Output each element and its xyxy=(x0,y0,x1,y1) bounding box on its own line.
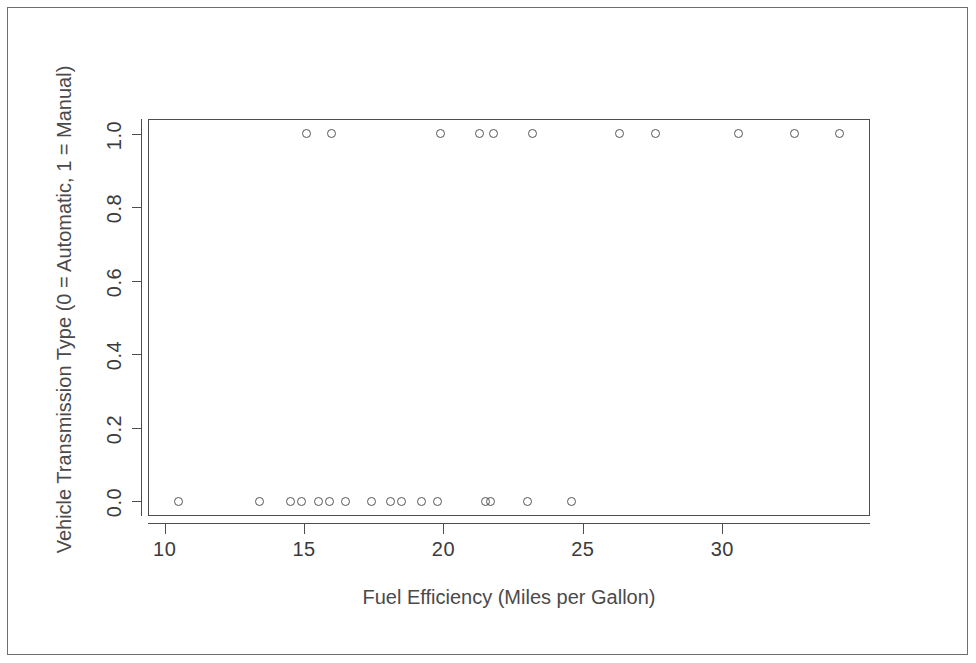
y-axis-tick-label: 0.6 xyxy=(103,262,126,302)
x-axis-tick xyxy=(165,523,166,534)
y-axis-tick-label-container: 0.4 xyxy=(94,334,134,374)
x-axis-tick xyxy=(583,523,584,534)
x-axis-tick-label: 30 xyxy=(692,538,752,561)
y-axis-tick-label-container: 0.8 xyxy=(94,187,134,227)
y-axis-tick-label: 0.2 xyxy=(103,409,126,449)
x-axis-tick xyxy=(722,523,723,534)
y-axis-tick-label-container: 0.0 xyxy=(94,481,134,521)
x-axis-title: Fuel Efficiency (Miles per Gallon) xyxy=(148,586,870,609)
y-axis-tick-label-container: 1.0 xyxy=(94,114,134,154)
y-axis-title-container: Vehicle Transmission Type (0 = Automatic… xyxy=(0,298,384,328)
x-axis-tick-label: 25 xyxy=(553,538,613,561)
y-axis-tick-label: 1.0 xyxy=(103,115,126,155)
y-axis-tick-label: 0.0 xyxy=(103,483,126,523)
chart-screenshot: 0.00.20.40.60.81.0 1015202530 Fuel Effic… xyxy=(0,0,976,663)
x-axis-tick-label: 20 xyxy=(413,538,473,561)
y-axis-tick-label: 0.4 xyxy=(103,336,126,376)
x-axis-tick xyxy=(304,523,305,534)
x-axis-tick xyxy=(443,523,444,534)
y-axis-title: Vehicle Transmission Type (0 = Automatic… xyxy=(53,0,76,630)
y-axis-tick-label-container: 0.6 xyxy=(94,261,134,301)
x-axis-line xyxy=(148,523,870,524)
y-axis-tick-label: 0.8 xyxy=(103,189,126,229)
x-axis-tick-label: 10 xyxy=(135,538,195,561)
x-axis-tick-label: 15 xyxy=(274,538,334,561)
y-axis-tick-label-container: 0.2 xyxy=(94,408,134,448)
